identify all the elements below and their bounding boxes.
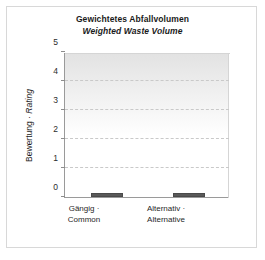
y-tick-label-2: 2 <box>53 124 58 134</box>
y-axis-title-en: Rating <box>24 89 34 114</box>
plot-area: 0 1 2 3 4 5 <box>64 53 229 198</box>
plot-right-border <box>228 53 229 198</box>
chart-title-block: Gewichtetes Abfallvolumen Weighted Waste… <box>7 13 258 37</box>
chart-card: Gewichtetes Abfallvolumen Weighted Waste… <box>6 6 257 248</box>
y-tick-mark-1 <box>61 167 65 168</box>
y-tick-label-1: 1 <box>53 153 58 163</box>
page-title: Gewichtetes Abfallvolumen <box>7 13 258 25</box>
y-tick-label-4: 4 <box>53 66 58 76</box>
y-tick-label-3: 3 <box>53 95 58 105</box>
x-category-label-common-line2: Common <box>39 215 129 226</box>
y-tick-mark-5 <box>61 51 65 52</box>
plot-top-border <box>65 53 230 54</box>
y-tick-mark-3 <box>61 109 65 110</box>
gridline-1 <box>65 167 229 168</box>
y-tick-label-5: 5 <box>53 37 58 47</box>
x-category-label-alternative-line2: Alternative <box>121 215 211 226</box>
y-tick-label-0: 0 <box>53 182 58 192</box>
bar-alternative <box>173 193 205 197</box>
bar-common <box>91 193 123 197</box>
x-category-label-common-line1: Gängig · <box>39 204 129 215</box>
y-tick-mark-2 <box>61 138 65 139</box>
gridline-4 <box>65 80 229 81</box>
y-axis-title-separator: · <box>24 114 34 122</box>
y-axis-title-de: Bewertung <box>24 121 34 162</box>
y-axis-title: Bewertung · Rating <box>23 53 35 198</box>
x-category-label-alternative-line1: Alternativ · <box>121 204 211 215</box>
gridline-3 <box>65 109 229 110</box>
y-tick-mark-4 <box>61 80 65 81</box>
x-category-label-alternative: Alternativ · Alternative <box>121 204 211 225</box>
y-tick-mark-0 <box>61 196 65 197</box>
x-category-label-common: Gängig · Common <box>39 204 129 225</box>
gridline-2 <box>65 138 229 139</box>
chart-subtitle: Weighted Waste Volume <box>7 25 258 37</box>
